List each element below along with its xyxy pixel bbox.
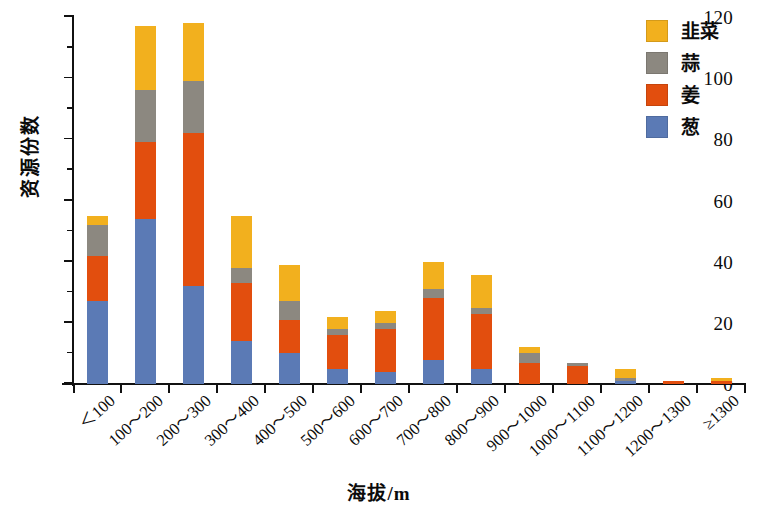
y-axis-tick-major [64, 199, 73, 201]
legend-item-葱[interactable]: 葱 [646, 112, 750, 142]
y-axis-tick-label: 60 [713, 191, 733, 210]
y-axis-tick-label: 20 [713, 313, 733, 332]
legend-label: 葱 [681, 118, 700, 137]
bar-segment-蒜 [279, 301, 300, 319]
bar-segment-葱 [87, 301, 108, 384]
bar-segment-葱 [135, 219, 156, 384]
bar-segment-姜 [135, 142, 156, 218]
bar-segment-韭菜 [471, 275, 492, 307]
legend-label: 蒜 [681, 54, 700, 73]
bar-segment-姜 [279, 320, 300, 354]
plot-area: 020406080100120 [73, 17, 745, 384]
legend-item-蒜[interactable]: 蒜 [646, 48, 750, 78]
legend-swatch-icon [646, 20, 668, 42]
bar-3 [183, 23, 204, 384]
legend-label: 韭菜 [681, 22, 719, 41]
y-axis-tick-minor [67, 230, 73, 232]
bar-segment-蒜 [135, 90, 156, 142]
bar-segment-韭菜 [87, 216, 108, 225]
x-axis-tick [73, 384, 75, 393]
bar-segment-姜 [423, 298, 444, 359]
y-axis-tick-major [64, 321, 73, 323]
legend-item-韭菜[interactable]: 韭菜 [646, 16, 750, 46]
bar-segment-蒜 [87, 225, 108, 256]
x-axis-title: 海拔/m [0, 478, 758, 505]
bar-segment-韭菜 [135, 26, 156, 90]
bar-segment-韭菜 [231, 216, 252, 268]
bar-segment-蒜 [423, 289, 444, 298]
bar-segment-韭菜 [375, 311, 396, 323]
bar-segment-蒜 [183, 81, 204, 133]
legend-swatch-icon [646, 84, 668, 106]
chart-legend: 韭菜蒜姜葱 [646, 16, 750, 144]
y-axis-tick-minor [67, 291, 73, 293]
y-axis-title: 资源份数 [15, 76, 42, 236]
y-axis-tick-label: 40 [713, 252, 733, 271]
bar-segment-韭菜 [183, 23, 204, 81]
bar-segment-姜 [87, 256, 108, 302]
legend-item-姜[interactable]: 姜 [646, 80, 750, 110]
bar-2 [135, 26, 156, 384]
bar-segment-姜 [183, 133, 204, 286]
bar-segment-韭菜 [327, 317, 348, 329]
x-axis-tick-label: ≥1300 [700, 391, 745, 433]
bar-segment-姜 [231, 283, 252, 341]
legend-label: 姜 [681, 86, 700, 105]
y-axis-tick-major [64, 15, 73, 17]
y-axis-tick-major [64, 260, 73, 262]
y-axis-tick-major [64, 77, 73, 79]
bar-1 [87, 216, 108, 384]
bar-segment-韭菜 [279, 265, 300, 302]
y-axis-tick-major [64, 138, 73, 140]
y-axis-tick-minor [67, 352, 73, 354]
legend-swatch-icon [646, 52, 668, 74]
y-axis-tick-minor [67, 107, 73, 109]
y-axis-tick-minor [67, 46, 73, 48]
bar-segment-蒜 [231, 268, 252, 283]
bar-segment-韭菜 [423, 262, 444, 290]
legend-swatch-icon [646, 116, 668, 138]
y-axis-tick-minor [67, 168, 73, 170]
y-axis-tick-major [64, 382, 73, 384]
stacked-bar-chart: 020406080100120 资源份数 海拔/m 韭菜蒜姜葱 ＜100100～… [0, 0, 758, 509]
